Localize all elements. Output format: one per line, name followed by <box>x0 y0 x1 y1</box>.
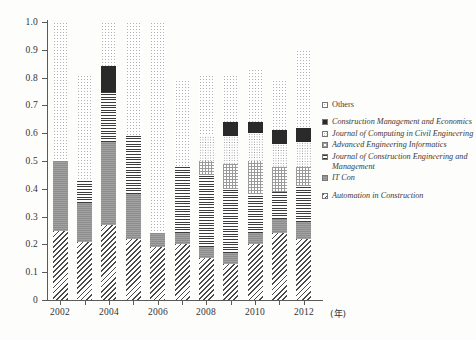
legend-swatch-icon <box>322 119 328 125</box>
x-axis-tick <box>109 301 110 305</box>
bar-segment <box>296 50 311 128</box>
y-axis-tick <box>42 22 47 23</box>
legend-item-label: Automation in Construction <box>332 191 474 201</box>
bar-2012 <box>296 22 311 300</box>
bar-segment <box>126 194 141 238</box>
legend-item-label: Advanced Engineering Informatics <box>332 140 474 150</box>
x-axis-tick-label: 2006 <box>148 307 168 317</box>
x-axis-line <box>47 300 323 301</box>
bar-segment <box>101 66 116 91</box>
y-axis-tick <box>42 272 47 273</box>
bar-segment <box>223 75 238 122</box>
bar-segment <box>199 161 214 175</box>
y-axis-tick <box>42 105 47 106</box>
legend-item[interactable]: Construction Management and Economics <box>322 117 474 127</box>
legend-swatch-icon <box>322 102 328 108</box>
bar-2010 <box>248 22 263 300</box>
legend-item-label: IT Con <box>332 173 474 183</box>
x-axis-tick-label: 2008 <box>196 307 216 317</box>
y-axis-tick-label: 1.0 <box>4 17 38 27</box>
y-axis-tick <box>42 78 47 79</box>
bar-segment <box>223 136 238 164</box>
x-axis-tick-label: 2010 <box>245 307 265 317</box>
bar-segment <box>101 92 116 142</box>
legend-swatch-icon <box>322 142 328 148</box>
bar-segment <box>77 242 92 300</box>
legend-item[interactable]: IT Con <box>322 173 474 183</box>
bar-segment <box>101 142 116 225</box>
x-axis-tick <box>231 301 232 305</box>
bar-segment <box>223 189 238 253</box>
bar-segment <box>272 144 287 166</box>
legend-swatch-icon <box>322 193 328 199</box>
bar-segment <box>199 75 214 136</box>
bar-segment <box>272 80 287 130</box>
plot-area <box>48 22 316 300</box>
bar-2011 <box>272 22 287 300</box>
chart-legend: OthersConstruction Management and Econom… <box>322 100 474 202</box>
stacked-bar-chart: 00.10.20.30.40.50.60.70.80.91.0 20022004… <box>0 0 476 340</box>
bar-segment <box>77 75 92 181</box>
bar-2006 <box>150 22 165 300</box>
bar-segment <box>248 122 263 133</box>
bar-2008 <box>199 22 214 300</box>
bar-2007 <box>175 22 190 300</box>
x-axis-tick-label: 2004 <box>99 307 119 317</box>
y-axis-tick <box>42 161 47 162</box>
y-axis-tick-label: 0.1 <box>4 267 38 277</box>
bar-segment <box>296 239 311 300</box>
y-axis-tick-label: 0 <box>4 295 38 305</box>
x-axis-tick <box>133 301 134 305</box>
bar-segment <box>248 161 263 194</box>
bar-segment <box>223 253 238 264</box>
x-axis-tick <box>85 301 86 305</box>
bar-segment <box>223 264 238 300</box>
legend-swatch-icon <box>322 131 328 137</box>
bar-segment <box>101 225 116 300</box>
bar-segment <box>248 244 263 300</box>
legend-item-label: Construction Management and Economics <box>332 117 474 127</box>
bar-segment <box>248 233 263 244</box>
bar-segment <box>272 233 287 300</box>
bar-2002 <box>53 22 68 300</box>
bar-segment <box>199 136 214 161</box>
x-axis-tick <box>304 301 305 305</box>
bar-segment <box>150 233 165 247</box>
bar-segment <box>296 222 311 239</box>
bar-segment <box>296 142 311 167</box>
bar-segment <box>248 69 263 122</box>
y-axis-tick <box>42 217 47 218</box>
bar-segment <box>272 219 287 233</box>
legend-item[interactable]: Advanced Engineering Informatics <box>322 140 474 150</box>
bar-segment <box>296 186 311 222</box>
y-axis-tick-label: 0.9 <box>4 45 38 55</box>
y-axis-tick <box>42 244 47 245</box>
bar-segment <box>175 244 190 300</box>
y-axis-tick <box>42 133 47 134</box>
legend-item[interactable]: Others <box>322 100 474 110</box>
bar-segment <box>248 133 263 161</box>
y-axis-tick-label: 0.8 <box>4 73 38 83</box>
legend-item[interactable]: Journal of Construction Engineering and … <box>322 152 474 173</box>
bar-2009 <box>223 22 238 300</box>
y-axis-tick-label: 0.3 <box>4 212 38 222</box>
bar-2003 <box>77 22 92 300</box>
bar-segment <box>296 128 311 142</box>
x-axis-tick-label: 2002 <box>50 307 70 317</box>
x-axis-tick <box>60 301 61 305</box>
legend-item[interactable]: Journal of Computing in Civil Engineerin… <box>322 129 474 139</box>
bar-segment <box>77 203 92 242</box>
bar-segment <box>77 180 92 202</box>
legend-swatch-icon <box>322 175 328 181</box>
legend-item[interactable]: Automation in Construction <box>322 191 474 201</box>
bar-segment <box>175 80 190 166</box>
bar-segment <box>223 164 238 189</box>
bar-segment <box>175 233 190 244</box>
y-axis-tick-label: 0.4 <box>4 184 38 194</box>
legend-item-label: Journal of Construction Engineering and … <box>332 152 474 173</box>
bar-segment <box>53 22 68 161</box>
x-axis-unit-label: (年) <box>330 307 346 320</box>
bar-segment <box>126 239 141 300</box>
bar-2005 <box>126 22 141 300</box>
y-axis-tick <box>42 50 47 51</box>
